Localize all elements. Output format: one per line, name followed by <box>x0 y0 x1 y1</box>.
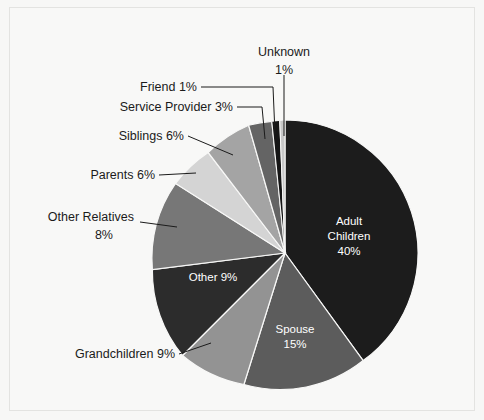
pie-chart-figure: Adult Children 40% Spouse 15% Other 9% U… <box>0 0 484 420</box>
callout-label-unknown-line2: 1% <box>275 63 293 77</box>
callout-label-unknown-line1: Unknown <box>258 45 310 59</box>
slice-label-spouse-line1: Spouse <box>275 323 314 335</box>
callout-label-grandchildren: Grandchildren 9% <box>75 347 175 361</box>
slice-label-adult-children-line3: 40% <box>337 245 360 257</box>
callout-label-friend: Friend 1% <box>140 80 197 94</box>
slice-label-adult-children-line2: Children <box>328 230 371 242</box>
callout-label-siblings: Siblings 6% <box>119 129 184 143</box>
callout-label-other-relatives-line1: Other Relatives <box>48 210 134 224</box>
callout-label-parents: Parents 6% <box>90 168 155 182</box>
pie-chart-canvas: Adult Children 40% Spouse 15% Other 9% U… <box>0 0 484 420</box>
slice-label-spouse-line2: 15% <box>283 338 306 350</box>
callout-label-other-relatives-line2: 8% <box>95 228 113 242</box>
slice-label-adult-children-line1: Adult <box>336 215 363 227</box>
slice-label-other: Other 9% <box>189 271 238 283</box>
callout-label-service-provider: Service Provider 3% <box>120 100 233 114</box>
